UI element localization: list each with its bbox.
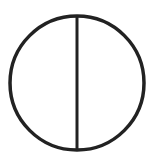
diagram-canvas bbox=[0, 0, 151, 156]
